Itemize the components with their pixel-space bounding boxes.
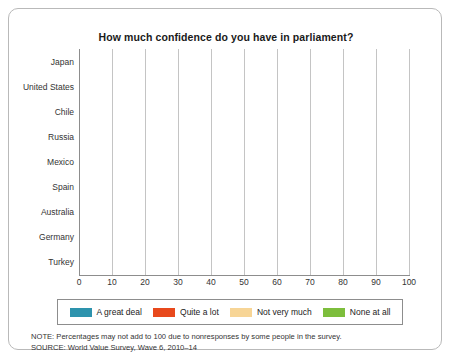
category-label: Turkey (48, 257, 74, 267)
category-label: Mexico (47, 157, 74, 167)
category-label: Chile (55, 107, 74, 117)
legend-swatch (153, 308, 175, 317)
chart-title: How much confidence do you have in parli… (9, 31, 443, 43)
legend-item[interactable]: Quite a lot (153, 307, 219, 317)
bar-row: Germany (79, 230, 409, 244)
x-tick-label: 20 (140, 277, 149, 287)
x-tick-label: 50 (239, 277, 248, 287)
legend-swatch (230, 308, 252, 317)
legend-item[interactable]: None at all (323, 307, 391, 317)
x-axis-tick-labels: 0102030405060708090100 (79, 277, 409, 291)
x-tick-label: 0 (77, 277, 82, 287)
x-tick-label: 30 (173, 277, 182, 287)
source-line: SOURCE: World Value Survey, Wave 6, 2010… (31, 342, 431, 353)
chart-legend: A great dealQuite a lotNot very muchNone… (57, 299, 403, 325)
x-tick-label: 60 (272, 277, 281, 287)
footnotes: NOTE: Percentages may not add to 100 due… (31, 331, 431, 353)
category-label: Germany (39, 232, 74, 242)
gridline (409, 49, 410, 275)
x-tick-label: 40 (206, 277, 215, 287)
bar-row: United States (79, 80, 409, 94)
legend-label: Not very much (257, 307, 312, 317)
legend-swatch (70, 308, 92, 317)
x-tick-label: 70 (305, 277, 314, 287)
note-line: NOTE: Percentages may not add to 100 due… (31, 331, 431, 342)
bar-row: Turkey (79, 255, 409, 269)
bar-rows: JapanUnited StatesChileRussiaMexicoSpain… (79, 49, 409, 275)
x-axis-line (79, 275, 410, 276)
legend-label: A great deal (97, 307, 142, 317)
legend-label: Quite a lot (180, 307, 219, 317)
category-label: Australia (41, 207, 74, 217)
legend-swatch (323, 308, 345, 317)
plot-area: JapanUnited StatesChileRussiaMexicoSpain… (79, 49, 409, 275)
bar-row: Australia (79, 205, 409, 219)
x-tick-label: 80 (338, 277, 347, 287)
x-tick-label: 100 (402, 277, 416, 287)
x-tick-label: 90 (371, 277, 380, 287)
category-label: Russia (48, 132, 74, 142)
bar-row: Chile (79, 105, 409, 119)
category-label: Japan (51, 57, 74, 67)
chart-card: How much confidence do you have in parli… (8, 8, 442, 350)
bar-row: Japan (79, 55, 409, 69)
bar-row: Mexico (79, 155, 409, 169)
category-label: Spain (52, 182, 74, 192)
bar-row: Spain (79, 180, 409, 194)
legend-item[interactable]: A great deal (70, 307, 142, 317)
legend-item[interactable]: Not very much (230, 307, 312, 317)
x-tick-label: 10 (107, 277, 116, 287)
category-label: United States (23, 82, 74, 92)
legend-label: None at all (350, 307, 391, 317)
bar-row: Russia (79, 130, 409, 144)
